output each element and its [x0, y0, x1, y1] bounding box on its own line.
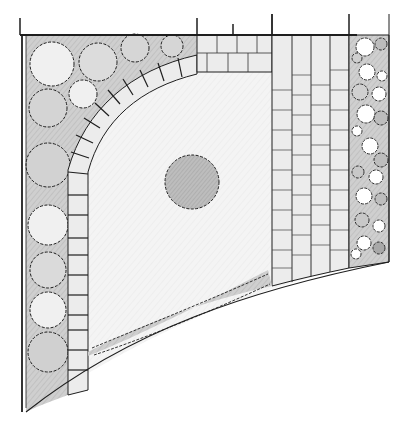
plant-icon: [375, 38, 387, 50]
shrub-icon: [79, 43, 117, 81]
plant-icon: [362, 138, 378, 154]
plant-icon: [357, 105, 375, 123]
plant-icon: [373, 220, 385, 232]
shrub-icon: [28, 332, 68, 372]
top-paving-band: [197, 35, 272, 72]
plant-icon: [375, 193, 387, 205]
plant-icon: [352, 53, 362, 63]
shrub-icon: [30, 252, 66, 288]
plant-icon: [352, 84, 368, 100]
plant-icon: [356, 188, 372, 204]
plant-icon: [374, 111, 388, 125]
plant-icon: [377, 71, 387, 81]
plant-icon: [355, 213, 369, 227]
shrub-icon: [69, 80, 97, 108]
right-planting-strip: [349, 35, 389, 268]
plant-icon: [352, 126, 362, 136]
shrub-icon: [28, 205, 68, 245]
plant-icon: [352, 166, 364, 178]
plant-icon: [351, 249, 361, 259]
plant-icon: [369, 170, 383, 184]
shrub-icon: [161, 35, 183, 57]
shrub-icon: [29, 89, 67, 127]
central-tree: [165, 155, 219, 209]
plant-icon: [359, 64, 375, 80]
plant-icon: [374, 153, 388, 167]
garden-plan: [0, 0, 414, 428]
shrub-icon: [30, 292, 66, 328]
plant-icon: [357, 236, 371, 250]
plant-icon: [373, 242, 385, 254]
plant-icon: [372, 87, 386, 101]
paved-path: [272, 35, 349, 286]
shrub-icon: [30, 42, 74, 86]
shrub-icon: [26, 143, 70, 187]
shrub-icon: [121, 34, 149, 62]
tree-icon: [165, 155, 219, 209]
